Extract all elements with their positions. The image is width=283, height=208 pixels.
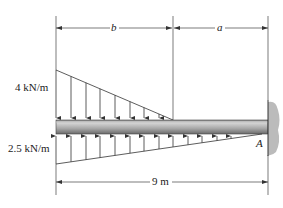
fixed-wall-support [268,100,280,156]
bottom-load-label: 2.5 kN/m [8,143,50,154]
downward-distributed-load [56,70,173,120]
beam-diagram [0,0,283,208]
support-a-label: A [256,138,263,149]
dimension-a-label: a [217,22,223,33]
beam [56,120,268,134]
top-load-label: 4 kN/m [15,82,48,93]
upward-distributed-load [56,134,262,164]
extension-lines [56,16,268,195]
total-length-label: 9 m [152,176,169,187]
dimension-b-label: b [111,22,117,33]
